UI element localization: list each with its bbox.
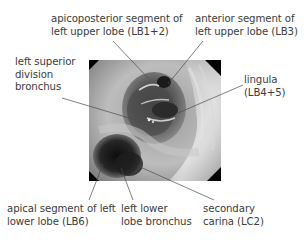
label-line: left upper lobe (LB3) <box>195 26 298 39</box>
label-line: bronchus <box>15 81 75 94</box>
label-line: left upper lobe (LB1+2) <box>51 26 183 39</box>
label-line: left superior <box>15 56 75 69</box>
label-line: lobe bronchus <box>121 216 192 229</box>
label-line: apicoposterior segment of <box>51 13 183 26</box>
bronchoscopy-illustration <box>89 60 221 181</box>
label-line: division <box>15 69 75 82</box>
label-apicoposterior-segment: apicoposterior segment of left upper lob… <box>51 13 183 38</box>
label-left-lower-lobe-bronchus: left lower lobe bronchus <box>121 203 192 228</box>
label-line: lingula <box>244 74 285 87</box>
label-line: apical segment of left <box>7 203 116 216</box>
label-lingula: lingula (LB4+5) <box>244 74 285 99</box>
label-line: (LB4+5) <box>244 87 285 100</box>
label-line: lower lobe (LB6) <box>7 216 116 229</box>
label-anterior-segment: anterior segment of left upper lobe (LB3… <box>195 13 298 38</box>
bronchoscopy-image <box>89 60 221 181</box>
label-apical-segment-lower-lobe: apical segment of left lower lobe (LB6) <box>7 203 116 228</box>
label-line: carina (LC2) <box>203 216 264 229</box>
label-left-superior-division-bronchus: left superior division bronchus <box>15 56 75 94</box>
label-line: secondary <box>203 203 264 216</box>
label-line: anterior segment of <box>195 13 298 26</box>
label-secondary-carina: secondary carina (LC2) <box>203 203 264 228</box>
label-line: left lower <box>121 203 192 216</box>
